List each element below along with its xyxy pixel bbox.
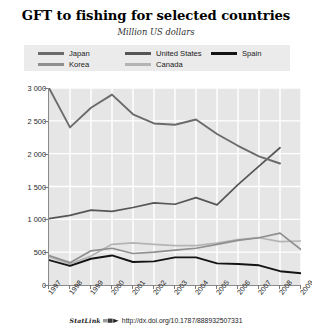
legend-label-united-states: United States — [156, 50, 202, 58]
y-axis-tick-label: 2 500 — [6, 117, 46, 126]
statlink-icon — [103, 318, 119, 325]
legend-swatch-korea — [38, 63, 64, 65]
statlink-label: StatLink — [70, 317, 101, 324]
source-footer: StatLinkhttp://dx.doi.org/10.1787/888932… — [0, 317, 312, 325]
chart-figure: GFT to fishing for selected countries Mi… — [0, 0, 312, 334]
legend-label-canada: Canada — [156, 61, 183, 69]
legend-item-japan[interactable]: Japan — [38, 48, 90, 59]
y-axis-tick-label: 1 500 — [6, 183, 46, 192]
legend-item-korea[interactable]: Korea — [38, 59, 89, 70]
y-axis-tick-label: 1 000 — [6, 215, 46, 224]
plot-area — [48, 88, 301, 286]
y-axis-tick-label: 3 000 — [6, 84, 46, 93]
chart-legend: Japan Korea United States Canada Spain — [24, 45, 290, 71]
y-axis-tick-label: 0 — [6, 281, 46, 290]
legend-item-canada[interactable]: Canada — [125, 59, 183, 70]
legend-item-united-states[interactable]: United States — [125, 48, 202, 59]
legend-swatch-canada — [125, 63, 151, 65]
series-line-united-states — [49, 148, 280, 219]
legend-item-spain[interactable]: Spain — [211, 48, 261, 59]
legend-swatch-united-states — [125, 52, 151, 54]
series-line-japan — [49, 88, 280, 164]
y-axis-tick-label: 500 — [6, 248, 46, 257]
legend-label-korea: Korea — [69, 61, 89, 69]
legend-swatch-japan — [38, 52, 64, 54]
series-lines — [49, 88, 301, 285]
legend-label-japan: Japan — [69, 50, 90, 58]
legend-swatch-spain — [211, 52, 237, 54]
chart-subtitle: Million US dollars — [0, 27, 312, 37]
page-title: GFT to fishing for selected countries — [0, 8, 312, 23]
legend-label-spain: Spain — [242, 50, 261, 58]
source-url[interactable]: http://dx.doi.org/10.1787/888932507331 — [122, 317, 243, 324]
y-axis-tick-label: 2 000 — [6, 150, 46, 159]
